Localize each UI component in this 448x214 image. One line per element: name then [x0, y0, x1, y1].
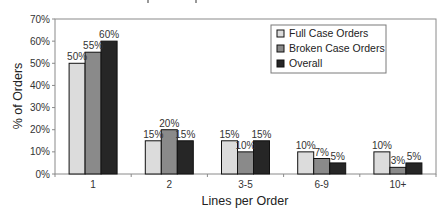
- data-label: 5%: [407, 151, 422, 162]
- legend: Full Case OrdersBroken Case OrdersOveral…: [271, 25, 386, 73]
- bar: [374, 152, 390, 174]
- bar: [69, 63, 85, 174]
- bar: [238, 152, 254, 174]
- bar-chart: 0%10%20%30%40%50%60%70% 123-56-910+ 50%5…: [0, 0, 448, 214]
- data-label: 5%: [330, 151, 345, 162]
- legend-label: Overall: [289, 57, 322, 69]
- data-label: 50%: [67, 51, 87, 62]
- data-label: 20%: [159, 118, 179, 129]
- legend-swatch: [277, 45, 284, 52]
- legend-label: Broken Case Orders: [289, 42, 385, 54]
- legend-swatch: [277, 30, 284, 37]
- x-tick-label: 10+: [389, 179, 406, 190]
- bar: [254, 141, 270, 174]
- data-label: 10%: [296, 140, 316, 151]
- legend-swatch: [277, 60, 284, 67]
- data-label: 15%: [143, 129, 163, 140]
- data-label: 55%: [83, 40, 103, 51]
- legend-label: Full Case Orders: [289, 27, 368, 39]
- data-label: 15%: [251, 129, 271, 140]
- y-tick-label: 30%: [30, 102, 50, 113]
- data-label: 15%: [175, 129, 195, 140]
- y-tick-label: 10%: [30, 146, 50, 157]
- x-tick-label: 2: [167, 179, 173, 190]
- bar: [298, 152, 314, 174]
- data-label: 10%: [372, 140, 392, 151]
- bar: [85, 52, 101, 174]
- bar: [101, 41, 117, 174]
- bar: [330, 163, 346, 174]
- y-tick-label: 40%: [30, 80, 50, 91]
- x-axis: 123-56-910+: [55, 174, 436, 190]
- x-tick-label: 3-5: [238, 179, 253, 190]
- bar: [177, 141, 193, 174]
- data-label: 60%: [99, 29, 119, 40]
- data-label: 7%: [314, 147, 329, 158]
- clipped-title-fragment: [147, 0, 197, 3]
- bar: [314, 159, 330, 175]
- x-tick-label: 6-9: [314, 179, 329, 190]
- data-label: 10%: [235, 140, 255, 151]
- y-axis: 0%10%20%30%40%50%60%70%: [30, 14, 55, 180]
- data-label: 15%: [219, 129, 239, 140]
- y-tick-label: 50%: [30, 58, 50, 69]
- y-tick-label: 60%: [30, 36, 50, 47]
- y-tick-label: 20%: [30, 124, 50, 135]
- y-axis-title: % of Orders: [11, 63, 25, 130]
- bar: [390, 167, 406, 174]
- data-label: 3%: [391, 155, 406, 166]
- y-tick-label: 70%: [30, 14, 50, 25]
- bar: [406, 163, 422, 174]
- x-axis-title: Lines per Order: [202, 194, 289, 208]
- y-tick-label: 0%: [36, 169, 51, 180]
- bar: [145, 141, 161, 174]
- x-tick-label: 1: [90, 179, 96, 190]
